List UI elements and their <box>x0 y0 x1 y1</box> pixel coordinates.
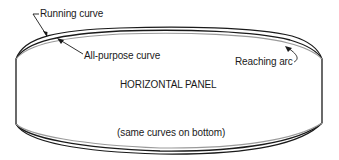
reaching-arc-arrowhead-icon <box>285 46 292 52</box>
bottom-note: (same curves on bottom) <box>117 128 225 138</box>
all-purpose-curve-label: All-purpose curve <box>84 51 160 61</box>
top-running-curve <box>16 27 322 59</box>
panel-title: HORIZONTAL PANEL <box>120 80 217 90</box>
all-purpose-leader <box>60 40 83 54</box>
reaching-arc-label: Reaching arc <box>235 57 293 67</box>
running-curve-label: Running curve <box>40 9 103 19</box>
top-all-purpose-curve <box>16 30 322 59</box>
